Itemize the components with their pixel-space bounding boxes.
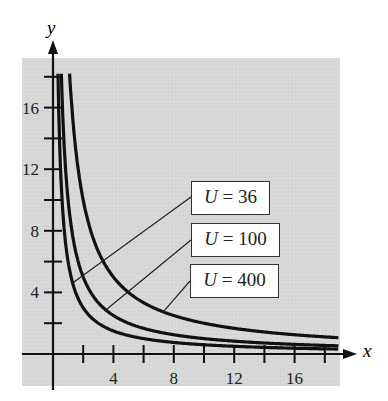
legend-label-u100: U = 100 xyxy=(191,223,280,257)
svg-text:12: 12 xyxy=(226,369,243,388)
x-axis-arrow-icon xyxy=(343,349,357,359)
svg-text:12: 12 xyxy=(22,160,39,179)
svg-text:8: 8 xyxy=(31,222,40,241)
legend-label-u400: U = 400 xyxy=(190,264,279,298)
svg-text:8: 8 xyxy=(170,369,179,388)
y-axis-label: y xyxy=(47,17,55,39)
x-axis-label: x xyxy=(363,340,371,362)
y-axis-arrow-icon xyxy=(48,40,58,54)
svg-text:16: 16 xyxy=(22,99,39,118)
svg-text:4: 4 xyxy=(109,369,118,388)
svg-text:16: 16 xyxy=(286,369,303,388)
legend-label-u36: U = 36 xyxy=(191,181,270,215)
svg-text:4: 4 xyxy=(31,283,40,302)
